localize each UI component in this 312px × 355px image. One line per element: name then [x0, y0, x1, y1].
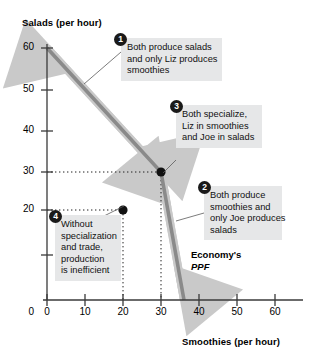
- callout-4-line-4: production: [61, 254, 116, 266]
- x-tick-label-0: 0: [36, 306, 58, 317]
- callout-badge-2: 2: [198, 181, 211, 194]
- callout-2-line-4: salads: [210, 225, 277, 237]
- callout-4-line-5: is inefficient: [61, 265, 116, 277]
- callout-badge-3: 3: [170, 100, 183, 113]
- y-tick-label-30: 30: [12, 165, 34, 176]
- ppf-chart: Salads (per hour) Smoothies (per hour) 6…: [0, 0, 312, 355]
- callout-2-line-3: only Joe produces: [210, 213, 277, 225]
- ppf-curve-label: Economy's PPF: [191, 249, 241, 272]
- callout-4-line-3: and trade,: [61, 242, 116, 254]
- callout-3-line-3: and Joe in salads: [182, 132, 257, 144]
- x-axis-title: Smoothies (per hour): [182, 336, 280, 347]
- callout-2-line-2: smoothies and: [210, 202, 277, 214]
- callout-badge-4: 4: [49, 210, 62, 223]
- callout-4-line-1: Without: [61, 219, 116, 231]
- callout-1-line-1: Both produce salads: [127, 42, 217, 54]
- callout-1-line-2: and only Liz produces: [127, 54, 217, 66]
- callout-1-line-3: smoothies: [127, 65, 217, 77]
- callout-box-2: Both produce smoothies and only Joe prod…: [204, 186, 282, 240]
- callout-box-1: Both produce salads and only Liz produce…: [121, 38, 222, 81]
- x-tick-label-60: 60: [264, 306, 286, 317]
- x-tick-label-40: 40: [188, 306, 210, 317]
- callout-box-3: Both specialize, Liz in smoothies and Jo…: [176, 105, 262, 148]
- y-axis-title: Salads (per hour): [22, 17, 102, 28]
- x-tick-label-50: 50: [226, 306, 248, 317]
- callout-4-line-2: specialization: [61, 231, 116, 243]
- callout-box-4: Without specialization and trade, produc…: [55, 215, 121, 281]
- ppf-label-abbr: PPF: [191, 261, 209, 272]
- x-tick-label-20: 20: [112, 306, 134, 317]
- callout-2-line-1: Both produce: [210, 190, 277, 202]
- y-tick-label-0: 0: [12, 306, 34, 317]
- x-tick-label-30: 30: [150, 306, 172, 317]
- callout-3-line-2: Liz in smoothies: [182, 121, 257, 133]
- ppf-label-word: Economy's: [191, 249, 241, 260]
- callout-3-line-1: Both specialize,: [182, 109, 257, 121]
- x-tick-label-10: 10: [74, 306, 96, 317]
- y-tick-label-50: 50: [12, 83, 34, 94]
- y-tick-label-20: 20: [12, 203, 34, 214]
- y-tick-label-40: 40: [12, 124, 34, 135]
- y-tick-label-60: 60: [12, 41, 34, 52]
- callout-badge-1: 1: [114, 33, 127, 46]
